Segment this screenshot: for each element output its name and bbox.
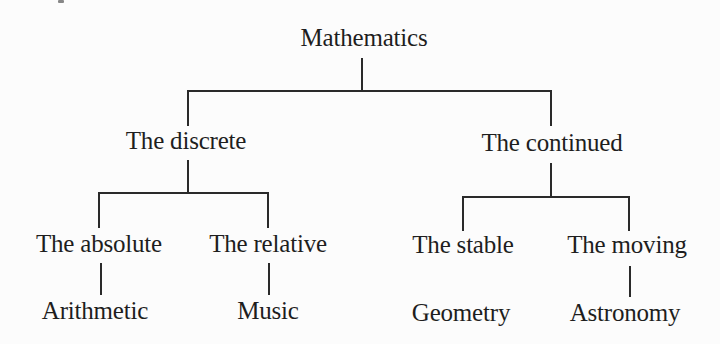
connector-root-down (361, 58, 363, 92)
connector-discrete-branch (98, 192, 269, 194)
leaf-music: Music (237, 298, 299, 323)
node-the-moving: The moving (567, 232, 687, 257)
connector-moving-astronomy (629, 266, 631, 297)
scan-speck (58, 0, 64, 3)
leaf-arithmetic: Arithmetic (42, 298, 148, 323)
node-the-absolute: The absolute (36, 231, 162, 256)
node-the-continued: The continued (481, 130, 622, 155)
node-the-relative: The relative (209, 231, 327, 256)
node-the-discrete: The discrete (126, 128, 246, 153)
connector-to-moving (628, 196, 630, 231)
connector-to-continued (550, 90, 552, 126)
connector-root-branch (187, 90, 552, 92)
node-mathematics: Mathematics (301, 25, 428, 50)
connector-to-discrete (187, 90, 189, 126)
connector-to-stable (462, 196, 464, 231)
connector-absolute-arithmetic (100, 263, 102, 295)
connector-continued-branch (462, 196, 630, 198)
leaf-astronomy: Astronomy (570, 300, 681, 325)
connector-continued-down (550, 163, 552, 197)
node-the-stable: The stable (412, 232, 513, 257)
connector-to-relative (267, 193, 269, 228)
leaf-geometry: Geometry (412, 300, 510, 325)
connector-discrete-down (187, 160, 189, 193)
connector-relative-music (268, 263, 270, 295)
connector-to-absolute (98, 192, 100, 228)
